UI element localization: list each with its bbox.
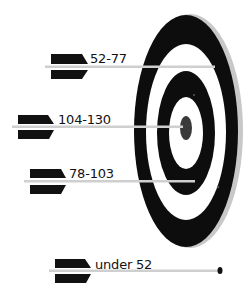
arrow-label: 104-130: [58, 113, 111, 126]
fletching-bottom: [51, 70, 88, 79]
target-dot-1: [193, 94, 195, 96]
fletching-bottom: [18, 130, 54, 139]
arrow-label: 78-103: [69, 167, 114, 180]
fletching-bottom: [55, 274, 91, 283]
arrow-label: 52-77: [90, 52, 127, 65]
target-board: [134, 14, 243, 248]
arrow-tip: [218, 267, 223, 274]
arrow-shaft: [45, 66, 215, 69]
fletching-top: [18, 115, 54, 124]
fletching-top: [51, 54, 88, 64]
fletching-top: [30, 169, 66, 178]
target-dot-2: [217, 186, 219, 188]
fletching-top: [55, 259, 91, 268]
arrow-label: under 52: [95, 258, 152, 271]
fletching-bottom: [30, 185, 66, 194]
